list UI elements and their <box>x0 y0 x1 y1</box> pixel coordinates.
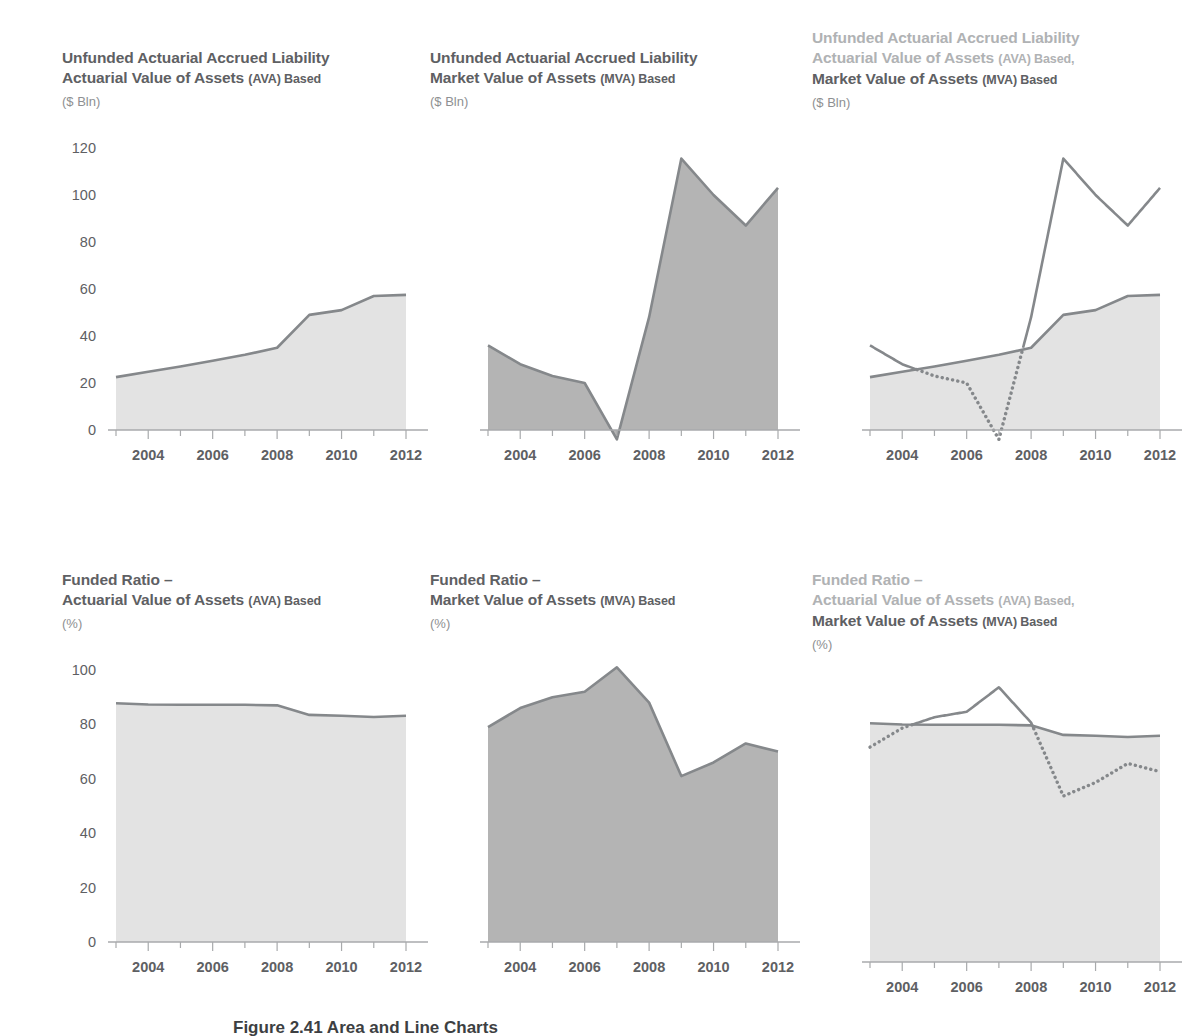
y-axis-tick-label: 60 <box>80 281 96 297</box>
area-series-mva <box>488 667 778 942</box>
panel-title-line-1: Actuarial Value of Assets (AVA) Based, <box>812 590 1194 611</box>
y-axis-tick-label: 0 <box>88 422 96 438</box>
panel-title-line-1: Market Value of Assets (MVA) Based <box>430 68 820 89</box>
y-axis-tick-label: 20 <box>80 880 96 896</box>
area-series-ava <box>870 723 1160 962</box>
panel-title-qualifier: (AVA) Based, <box>998 594 1074 608</box>
panel-unfunded-mva: Unfunded Actuarial Accrued LiabilityMark… <box>430 48 820 488</box>
x-axis-tick-label: 2006 <box>197 447 229 463</box>
panel-title-qualifier: (AVA) Based <box>248 72 321 86</box>
x-axis-tick-label: 2006 <box>569 447 601 463</box>
figure-canvas: Unfunded Actuarial Accrued LiabilityActu… <box>0 0 1194 1036</box>
panel-title-line-2: Market Value of Assets (MVA) Based <box>812 69 1194 90</box>
x-axis-tick-label: 2010 <box>697 959 729 975</box>
panel-title-line-1: Actuarial Value of Assets (AVA) Based <box>62 590 462 611</box>
y-axis-tick-label: 60 <box>80 771 96 787</box>
x-axis-tick-label: 2006 <box>951 979 983 995</box>
panel-title: Unfunded Actuarial Accrued LiabilityMark… <box>430 48 820 112</box>
panel-unit-label: ($ Bln) <box>62 92 462 112</box>
panel-title-line-2: Market Value of Assets (MVA) Based <box>812 611 1194 632</box>
x-axis-tick-label: 2008 <box>633 959 665 975</box>
y-axis-tick-label: 20 <box>80 375 96 391</box>
x-axis-tick-label: 2004 <box>886 979 918 995</box>
panel-plot: 02040608010020042006200820102012 <box>62 662 436 990</box>
panel-title-line-0: Unfunded Actuarial Accrued Liability <box>430 48 820 68</box>
x-axis-tick-label: 2012 <box>390 959 422 975</box>
panel-title-line-0: Unfunded Actuarial Accrued Liability <box>812 28 1194 48</box>
panel-title: Unfunded Actuarial Accrued LiabilityActu… <box>62 48 462 112</box>
x-axis-tick-label: 2008 <box>261 447 293 463</box>
x-axis-tick-label: 2012 <box>1144 447 1176 463</box>
panel-title-line-0: Funded Ratio – <box>430 570 820 590</box>
x-axis-tick-label: 2010 <box>325 447 357 463</box>
x-axis-tick-label: 2006 <box>951 447 983 463</box>
panel-title: Unfunded Actuarial Accrued LiabilityActu… <box>812 28 1194 113</box>
chart-svg: 02040608010012020042006200820102012 <box>62 140 436 478</box>
panel-funded-ratio-combined: Funded Ratio –Actuarial Value of Assets … <box>812 570 1194 1010</box>
x-axis-tick-label: 2010 <box>1079 979 1111 995</box>
y-axis-tick-label: 40 <box>80 328 96 344</box>
line-series-mva-solid-segment <box>870 345 917 369</box>
panel-funded-ratio-ava: Funded Ratio –Actuarial Value of Assets … <box>62 570 462 1010</box>
figure-caption: Figure 2.41 Area and Line Charts <box>233 1018 933 1036</box>
x-axis-tick-label: 2012 <box>762 959 794 975</box>
panel-title-qualifier: (MVA) Based <box>982 73 1057 87</box>
y-axis-tick-label: 80 <box>80 716 96 732</box>
x-axis-tick-label: 2006 <box>197 959 229 975</box>
x-axis-tick-label: 2012 <box>762 447 794 463</box>
panel-unit-label: (%) <box>62 614 462 634</box>
chart-svg: 20042006200820102012 <box>434 140 808 478</box>
x-axis-tick-label: 2010 <box>1079 447 1111 463</box>
y-axis-tick-label: 100 <box>72 662 96 678</box>
area-series-mva <box>488 159 778 440</box>
area-series-ava <box>116 703 406 942</box>
chart-svg: 20042006200820102012 <box>434 662 808 990</box>
x-axis-tick-label: 2004 <box>132 447 164 463</box>
panel-unfunded-ava: Unfunded Actuarial Accrued LiabilityActu… <box>62 48 462 488</box>
panel-title-line-1: Actuarial Value of Assets (AVA) Based <box>62 68 462 89</box>
x-axis-tick-label: 2010 <box>697 447 729 463</box>
panel-unit-label: ($ Bln) <box>812 93 1194 113</box>
area-series-ava <box>116 295 406 430</box>
y-axis-tick-label: 100 <box>72 187 96 203</box>
panel-unfunded-combined: Unfunded Actuarial Accrued LiabilityActu… <box>812 28 1194 488</box>
x-axis-tick-label: 2008 <box>633 447 665 463</box>
x-axis-tick-label: 2004 <box>504 447 536 463</box>
y-axis-tick-label: 120 <box>72 140 96 156</box>
panel-title-line-1: Market Value of Assets (MVA) Based <box>430 590 820 611</box>
panel-title-line-0: Funded Ratio – <box>812 570 1194 590</box>
x-axis-tick-label: 2004 <box>504 959 536 975</box>
panel-unit-label: ($ Bln) <box>430 92 820 112</box>
x-axis-tick-label: 2008 <box>1015 979 1047 995</box>
x-axis-tick-label: 2004 <box>886 447 918 463</box>
panel-title-line-0: Funded Ratio – <box>62 570 462 590</box>
area-series-ava <box>870 295 1160 430</box>
chart-svg: 20042006200820102012 <box>816 140 1190 478</box>
panel-title-qualifier: (MVA) Based <box>982 615 1057 629</box>
y-axis-tick-label: 40 <box>80 825 96 841</box>
x-axis-tick-label: 2012 <box>390 447 422 463</box>
y-axis-tick-label: 0 <box>88 934 96 950</box>
panel-plot: 20042006200820102012 <box>816 140 1190 478</box>
x-axis-tick-label: 2006 <box>569 959 601 975</box>
panel-title: Funded Ratio –Actuarial Value of Assets … <box>62 570 462 634</box>
panel-unit-label: (%) <box>812 635 1194 655</box>
panel-title-qualifier: (MVA) Based <box>600 72 675 86</box>
x-axis-tick-label: 2010 <box>325 959 357 975</box>
panel-funded-ratio-mva: Funded Ratio –Market Value of Assets (MV… <box>430 570 820 1010</box>
panel-title: Funded Ratio –Market Value of Assets (MV… <box>430 570 820 634</box>
panel-title-qualifier: (MVA) Based <box>600 594 675 608</box>
panel-plot: 20042006200820102012 <box>816 682 1190 1010</box>
line-series-mva-solid-segment <box>913 687 1034 728</box>
chart-svg: 20042006200820102012 <box>816 682 1190 1010</box>
panel-title-line-1: Actuarial Value of Assets (AVA) Based, <box>812 48 1194 69</box>
panel-plot: 20042006200820102012 <box>434 140 808 478</box>
panel-unit-label: (%) <box>430 614 820 634</box>
y-axis-tick-label: 80 <box>80 234 96 250</box>
panel-title-qualifier: (AVA) Based, <box>998 52 1074 66</box>
panel-plot: 20042006200820102012 <box>434 662 808 990</box>
panel-title: Funded Ratio –Actuarial Value of Assets … <box>812 570 1194 655</box>
panel-plot: 02040608010012020042006200820102012 <box>62 140 436 478</box>
x-axis-tick-label: 2008 <box>261 959 293 975</box>
chart-svg: 02040608010020042006200820102012 <box>62 662 436 990</box>
